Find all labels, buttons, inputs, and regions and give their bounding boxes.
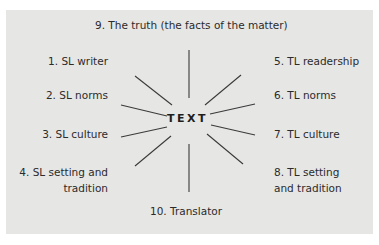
node-truth: 9. The truth (the facts of the matter) [95,17,288,33]
node-tl-readership: 5. TL readership [274,53,359,69]
node-sl-writer: 1. SL writer [48,53,108,69]
line-to-sl-culture [121,127,167,137]
line-to-tl-norms [210,104,255,114]
center-text-node: TEXT [167,112,208,125]
node-tl-setting-tradition: 8. TL setting and tradition [274,164,342,196]
node-sl-setting-line2: tradition [19,180,108,196]
node-sl-norms: 2. SL norms [46,87,108,103]
line-to-tl-culture [211,125,255,135]
node-translator: 10. Translator [150,203,222,219]
node-sl-setting-line1: 4. SL setting and [19,164,108,180]
node-tl-norms: 6. TL norms [274,87,336,103]
line-to-tl-setting [207,134,243,164]
node-tl-culture: 7. TL culture [274,126,340,142]
node-sl-setting-tradition: 4. SL setting and tradition [19,164,108,196]
node-tl-setting-line2: and tradition [274,180,342,196]
line-to-sl-norms [121,105,167,116]
node-tl-setting-line1: 8. TL setting [274,164,342,180]
line-to-sl-writer [135,76,172,105]
node-sl-culture: 3. SL culture [42,126,108,142]
line-to-sl-setting [135,136,171,166]
line-to-tl-readership [205,75,241,105]
